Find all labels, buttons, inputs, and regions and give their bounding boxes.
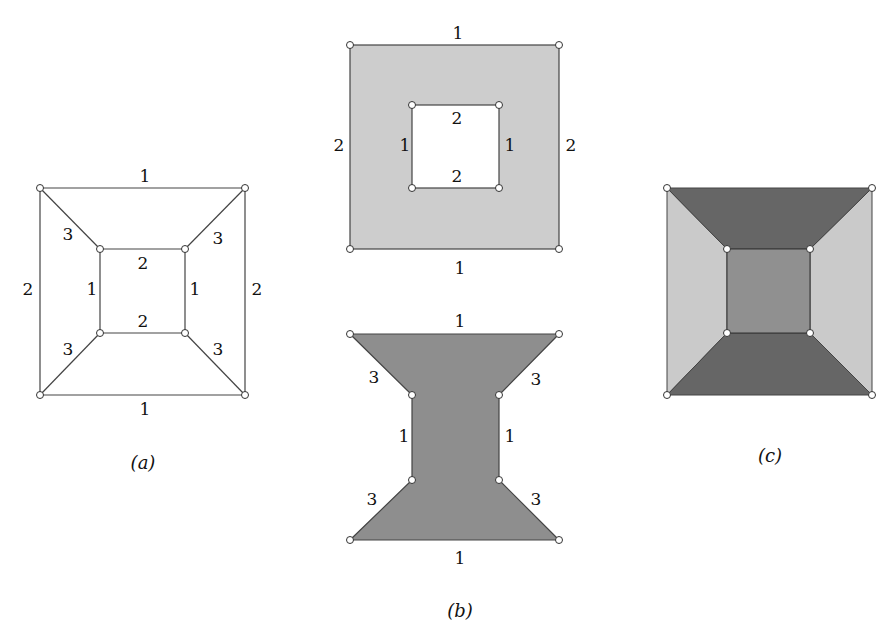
a-vertex bbox=[242, 392, 249, 399]
c-vertex bbox=[664, 185, 671, 192]
a-label-diag-bottom-left: 3 bbox=[63, 339, 74, 359]
b-bottom-vertex bbox=[347, 331, 354, 338]
c-center-face bbox=[727, 249, 810, 333]
b-top-vertex bbox=[496, 185, 503, 192]
panel-b-top: 1 1 2 2 2 2 1 1 bbox=[334, 23, 577, 278]
a-label-outer-right: 2 bbox=[252, 279, 263, 299]
b-top-label-inner-top: 2 bbox=[452, 108, 463, 128]
a-label-inner-left: 1 bbox=[87, 279, 98, 299]
b-bottom-vertex bbox=[347, 537, 354, 544]
b-top-label-inner-bottom: 2 bbox=[452, 166, 463, 186]
a-vertex bbox=[242, 185, 249, 192]
a-vertex bbox=[97, 330, 104, 337]
a-label-diag-top-right: 3 bbox=[213, 228, 224, 248]
b-top-label-outer-left: 2 bbox=[334, 135, 345, 155]
b-bottom-vertex bbox=[556, 331, 563, 338]
a-label-inner-bottom: 2 bbox=[138, 311, 149, 331]
b-top-label-inner-right: 1 bbox=[505, 135, 516, 155]
b-bottom-label-inner-left: 1 bbox=[399, 426, 410, 446]
b-bottom-hourglass-region bbox=[350, 334, 559, 540]
b-bottom-vertex bbox=[496, 392, 503, 399]
b-bottom-label-diag-top-right: 3 bbox=[531, 369, 542, 389]
figure-canvas: 1 1 2 2 2 2 1 1 3 3 3 3 (a) 1 1 2 2 2 2 … bbox=[0, 0, 895, 644]
b-top-vertex bbox=[347, 42, 354, 49]
b-top-label-inner-left: 1 bbox=[400, 135, 411, 155]
b-top-label-outer-top: 1 bbox=[453, 23, 464, 43]
b-bottom-label-diag-bottom-left: 3 bbox=[367, 489, 378, 509]
c-vertex bbox=[724, 330, 731, 337]
caption-c: (c) bbox=[758, 445, 782, 466]
a-vertex bbox=[97, 246, 104, 253]
c-vertex bbox=[807, 330, 814, 337]
panel-b-bottom: 1 1 1 1 3 3 3 3 (b) bbox=[347, 311, 563, 621]
panel-c: (c) bbox=[664, 185, 876, 466]
b-bottom-label-inner-right: 1 bbox=[505, 426, 516, 446]
b-bottom-vertex bbox=[556, 537, 563, 544]
caption-a: (a) bbox=[131, 452, 156, 473]
a-label-inner-top: 2 bbox=[138, 253, 149, 273]
c-vertex bbox=[869, 392, 876, 399]
a-vertex bbox=[37, 392, 44, 399]
a-label-diag-bottom-right: 3 bbox=[213, 339, 224, 359]
panel-a: 1 1 2 2 2 2 1 1 3 3 3 3 (a) bbox=[23, 166, 263, 473]
a-label-outer-left: 2 bbox=[23, 279, 34, 299]
b-bottom-label-diag-bottom-right: 3 bbox=[531, 489, 542, 509]
b-top-vertex bbox=[409, 185, 416, 192]
b-top-vertex bbox=[347, 246, 354, 253]
b-top-vertex bbox=[496, 102, 503, 109]
b-top-vertex bbox=[556, 246, 563, 253]
a-label-outer-top: 1 bbox=[140, 166, 151, 186]
a-label-outer-bottom: 1 bbox=[140, 399, 151, 419]
b-top-vertex bbox=[409, 102, 416, 109]
b-top-vertex bbox=[556, 42, 563, 49]
a-vertex bbox=[182, 246, 189, 253]
a-label-inner-right: 1 bbox=[190, 279, 201, 299]
b-top-annulus-region bbox=[350, 45, 559, 249]
b-bottom-vertex bbox=[409, 477, 416, 484]
b-bottom-label-top: 1 bbox=[455, 311, 466, 331]
c-vertex bbox=[664, 392, 671, 399]
b-bottom-label-diag-top-left: 3 bbox=[369, 367, 380, 387]
c-vertex bbox=[724, 246, 731, 253]
b-bottom-vertex bbox=[409, 392, 416, 399]
b-top-label-outer-bottom: 1 bbox=[455, 258, 466, 278]
c-vertex bbox=[807, 246, 814, 253]
b-bottom-label-bottom: 1 bbox=[455, 548, 466, 568]
b-top-label-outer-right: 2 bbox=[566, 135, 577, 155]
a-vertex bbox=[37, 185, 44, 192]
c-vertex bbox=[869, 185, 876, 192]
b-bottom-vertex bbox=[496, 477, 503, 484]
a-vertex bbox=[182, 330, 189, 337]
caption-b: (b) bbox=[447, 600, 473, 621]
a-label-diag-top-left: 3 bbox=[63, 224, 74, 244]
